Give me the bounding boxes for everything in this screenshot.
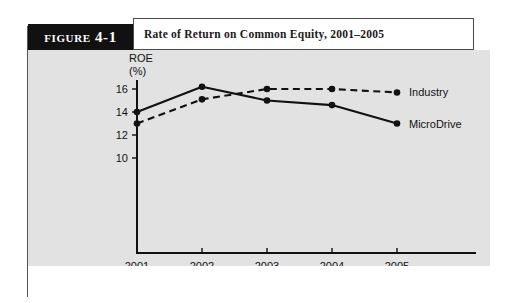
data-point-microdrive <box>199 83 206 90</box>
figure-title-box: Rate of Return on Common Equity, 2001–20… <box>133 18 474 50</box>
legend-label-industry: Industry <box>409 86 449 98</box>
x-tick-label: 2005 <box>385 260 409 266</box>
chart-panel: 10121416 20012002200320042005 ROE(%) Ind… <box>28 50 490 266</box>
y-tick-label: 10 <box>116 152 128 164</box>
y-tick-label: 16 <box>116 83 128 95</box>
x-tick-label: 2001 <box>125 260 149 266</box>
y-axis-title-line1: ROE <box>129 52 153 64</box>
x-tick-label: 2003 <box>255 260 279 266</box>
axis-lines <box>137 80 476 253</box>
figure-title: Rate of Return on Common Equity, 2001–20… <box>134 28 384 40</box>
x-tick-label: 2004 <box>320 260 344 266</box>
data-point-industry <box>134 120 141 127</box>
chart-legend: IndustryMicroDrive <box>409 86 462 129</box>
roe-line-chart: 10121416 20012002200320042005 ROE(%) Ind… <box>28 50 490 266</box>
data-point-industry <box>394 89 401 96</box>
figure-number-tab: Figure 4-1 <box>28 24 133 50</box>
data-point-microdrive <box>134 109 141 116</box>
data-point-microdrive <box>394 120 401 127</box>
y-axis-title: ROE(%) <box>129 52 153 77</box>
x-tick-label: 2002 <box>190 260 214 266</box>
data-point-microdrive <box>264 97 271 104</box>
data-point-industry <box>329 86 336 93</box>
series-line-industry <box>137 89 397 124</box>
y-tick-label: 14 <box>116 106 128 118</box>
data-point-industry <box>264 86 271 93</box>
data-point-microdrive <box>329 102 336 109</box>
figure-number-label: Figure 4-1 <box>44 29 117 46</box>
y-tick-label: 12 <box>116 129 128 141</box>
chart-series <box>134 83 401 126</box>
x-axis-ticks: 20012002200320042005 <box>125 248 409 266</box>
legend-label-microdrive: MicroDrive <box>409 118 462 130</box>
chart-axes <box>137 80 476 253</box>
y-axis-title-line2: (%) <box>129 65 146 77</box>
data-point-industry <box>199 96 206 103</box>
